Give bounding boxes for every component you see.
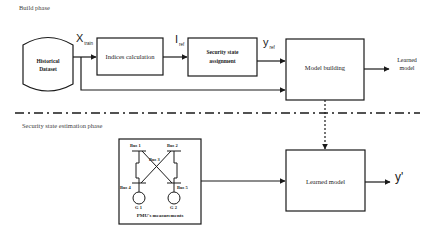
i-ref-variable: Iref bbox=[175, 33, 184, 47]
security-label-line1: Security state bbox=[188, 48, 257, 57]
model-building-label: Model building bbox=[286, 63, 364, 72]
security-state-label: Security state assignment bbox=[188, 48, 257, 66]
generator-2-label: G 2 bbox=[170, 205, 177, 210]
indices-calculation-label: Indices calculation bbox=[97, 52, 163, 61]
build-phase-label: Build phase bbox=[19, 4, 50, 11]
learned-model-output-label: Learned model bbox=[392, 56, 422, 72]
pmu-measurements-box bbox=[119, 139, 201, 224]
y-ref-variable: yref bbox=[263, 36, 275, 50]
estimation-phase-label: Security state estimation phase bbox=[22, 122, 102, 129]
bus-2-label: Bus 2 bbox=[167, 143, 178, 148]
generator-1-label: G 1 bbox=[135, 205, 142, 210]
dataset-label: Historical Dataset bbox=[23, 57, 73, 73]
bus-4-label: Bus 4 bbox=[120, 185, 131, 190]
bus-5-label: Bus 5 bbox=[177, 185, 188, 190]
i-symbol: I bbox=[175, 33, 178, 45]
learned-model-label: Learned model bbox=[286, 177, 365, 186]
security-label-line2: assignment bbox=[188, 57, 257, 66]
x-symbol: X bbox=[76, 32, 83, 44]
bus-1-label: Bus 1 bbox=[130, 143, 141, 148]
dataset-label-line1: Historical bbox=[23, 57, 73, 65]
output-line1: Learned bbox=[392, 56, 422, 64]
y-symbol: y bbox=[263, 36, 269, 48]
output-line2: model bbox=[392, 64, 422, 72]
bus-3-label: Bus 3 bbox=[149, 157, 160, 162]
i-subscript: ref bbox=[179, 42, 184, 47]
y-subscript: ref bbox=[270, 45, 275, 50]
x-subscript: train bbox=[84, 41, 93, 46]
x-train-variable: Xtrain bbox=[76, 32, 93, 46]
y-prime-output: y' bbox=[395, 170, 403, 184]
pmu-caption: PMU's measurements bbox=[119, 213, 201, 218]
diagram-canvas bbox=[0, 0, 431, 236]
dataset-label-line2: Dataset bbox=[23, 65, 73, 73]
